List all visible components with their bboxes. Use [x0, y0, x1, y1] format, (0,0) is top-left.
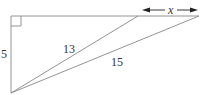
- arrowhead-right-icon: [190, 8, 198, 13]
- outer-hypotenuse: [11, 16, 199, 93]
- outer-hypotenuse-label: 15: [111, 55, 123, 69]
- inner-hypotenuse-label: 13: [63, 42, 75, 56]
- vertical-side-label: 5: [1, 47, 7, 61]
- extension-label: x: [167, 3, 174, 17]
- right-angle-marker: [11, 16, 21, 26]
- arrowhead-left-icon: [142, 8, 150, 13]
- triangle-diagram: x 5 13 15: [0, 0, 200, 95]
